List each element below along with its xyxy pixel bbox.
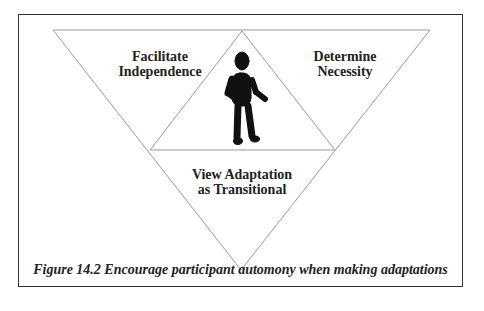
label-facilitate-independence: Facilitate Independence <box>105 49 215 79</box>
label-line: Facilitate <box>105 49 215 64</box>
figure-caption: Figure 14.2 Encourage participant automo… <box>18 262 463 278</box>
label-view-adaptation: View Adaptation as Transitional <box>172 167 312 197</box>
label-determine-necessity: Determine Necessity <box>290 49 400 79</box>
label-line: Determine <box>290 49 400 64</box>
label-line: View Adaptation <box>172 167 312 182</box>
person-figure-icon <box>228 52 265 145</box>
label-line: as Transitional <box>172 182 312 197</box>
label-line: Necessity <box>290 64 400 79</box>
label-line: Independence <box>105 64 215 79</box>
